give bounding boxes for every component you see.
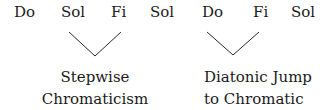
v-connector-2 [207,32,259,55]
label-line: Diatonic Jump [200,66,329,88]
label-stepwise-chromaticism: Stepwise Chromaticism [30,66,160,110]
label-diatonic-jump: Diatonic Jump to Chromatic [200,66,329,110]
label-line: Chromaticism [30,88,160,110]
label-line: to Chromatic [200,88,329,110]
v-connector-1 [69,32,121,56]
label-line: Stepwise [30,66,160,88]
